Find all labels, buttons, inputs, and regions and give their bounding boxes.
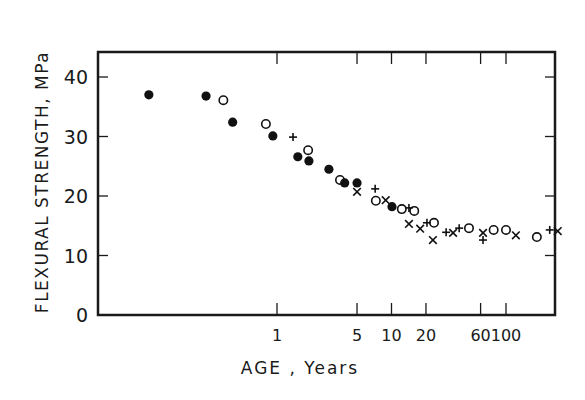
x-axis-label: AGE , Years bbox=[241, 358, 359, 378]
data-point-plus bbox=[479, 236, 487, 244]
x-tick-label: 100 bbox=[491, 326, 522, 345]
scatter-chart: 010203040 15102060100 FLEXURAL STRENGTH,… bbox=[0, 0, 585, 400]
data-point-cross bbox=[353, 188, 361, 196]
x-tick-label: 20 bbox=[416, 326, 436, 345]
y-axis-label: FLEXURAL STRENGTH, MPa bbox=[32, 51, 52, 313]
data-point-open-circle bbox=[262, 120, 270, 128]
data-point-plus bbox=[289, 133, 297, 141]
y-tick-label: 20 bbox=[64, 185, 88, 207]
data-point-open-circle bbox=[465, 224, 473, 232]
data-point-filled-circle bbox=[268, 131, 277, 140]
axis-ticks bbox=[98, 52, 555, 315]
data-point-open-circle bbox=[372, 197, 380, 205]
data-point-cross bbox=[512, 231, 520, 239]
data-point-open-circle bbox=[398, 205, 406, 213]
data-point-cross bbox=[429, 236, 437, 244]
y-tick-label: 40 bbox=[64, 66, 88, 88]
data-point-filled-circle bbox=[304, 156, 313, 165]
data-point-filled-circle bbox=[324, 165, 333, 174]
data-point-filled-circle bbox=[201, 91, 210, 100]
plot-frame bbox=[98, 52, 555, 315]
y-tick-label: 10 bbox=[64, 245, 88, 267]
data-point-filled-circle bbox=[352, 178, 361, 187]
y-tick-label: 0 bbox=[76, 304, 88, 326]
data-point-open-circle bbox=[304, 146, 312, 154]
x-tick-label: 5 bbox=[352, 326, 362, 345]
x-tick-labels: 15102060100 bbox=[272, 326, 521, 345]
data-point-cross bbox=[479, 229, 487, 237]
data-point-filled-circle bbox=[228, 118, 237, 127]
x-tick-label: 60 bbox=[470, 326, 490, 345]
data-point-cross bbox=[449, 229, 457, 237]
data-point-cross bbox=[382, 196, 390, 204]
data-point-open-circle bbox=[489, 226, 497, 234]
x-tick-label: 10 bbox=[381, 326, 401, 345]
y-tick-labels: 010203040 bbox=[64, 66, 88, 326]
data-point-open-circle bbox=[219, 96, 227, 104]
x-tick-label: 1 bbox=[272, 326, 282, 345]
data-point-plus bbox=[371, 185, 379, 193]
y-tick-label: 30 bbox=[64, 126, 88, 148]
data-point-cross bbox=[405, 220, 413, 228]
data-point-filled-circle bbox=[144, 90, 153, 99]
data-point-plus bbox=[455, 224, 463, 232]
data-point-filled-circle bbox=[293, 152, 302, 161]
data-point-open-circle bbox=[502, 226, 510, 234]
data-points bbox=[144, 90, 561, 244]
data-point-cross bbox=[416, 225, 424, 233]
data-point-plus bbox=[546, 226, 554, 234]
data-point-open-circle bbox=[533, 233, 541, 241]
data-point-open-circle bbox=[430, 219, 438, 227]
